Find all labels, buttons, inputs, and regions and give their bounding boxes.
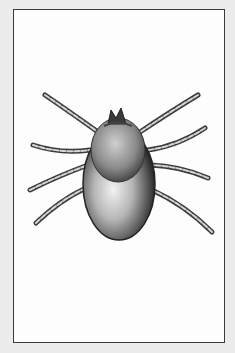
tick-illustration: [0, 0, 235, 353]
